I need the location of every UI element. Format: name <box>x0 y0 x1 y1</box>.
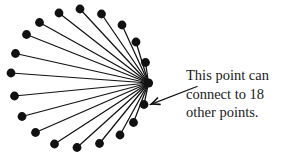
central-point <box>144 78 153 87</box>
caption-line-3: other points. <box>186 103 284 122</box>
connection-line <box>80 9 149 83</box>
outer-point <box>10 92 19 101</box>
outer-point <box>97 10 106 19</box>
outer-point <box>31 128 40 137</box>
outer-point <box>55 9 64 18</box>
connection-line <box>120 83 149 135</box>
outer-point <box>140 100 149 109</box>
outer-point <box>118 21 127 30</box>
fan-diagram-figure: This point can connect to 18 other point… <box>0 0 284 156</box>
caption-line-1: This point can <box>186 66 284 85</box>
outer-point <box>132 38 141 47</box>
outer-point <box>11 49 20 58</box>
outer-point <box>73 143 82 152</box>
outer-point <box>7 69 16 78</box>
outer-point <box>95 139 104 148</box>
connection-line <box>15 83 149 96</box>
outer-point <box>50 140 59 149</box>
outer-point <box>35 18 44 27</box>
caption-line-2: connect to 18 <box>186 85 284 104</box>
outer-point <box>76 5 85 14</box>
outer-point <box>22 30 31 39</box>
outer-point <box>129 118 138 127</box>
annotation-caption: This point can connect to 18 other point… <box>186 66 284 122</box>
connection-lines-group <box>11 9 149 148</box>
outer-point <box>18 112 27 121</box>
connection-line <box>40 23 149 84</box>
connection-line <box>55 83 149 144</box>
outer-point <box>116 131 125 140</box>
outer-point <box>141 58 150 67</box>
